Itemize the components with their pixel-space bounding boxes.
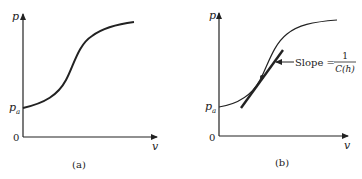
intercept-label: pa bbox=[9, 101, 20, 116]
y-axis-label: p bbox=[209, 9, 216, 22]
x-axis-label: v bbox=[344, 139, 351, 152]
origin-label: 0 bbox=[13, 132, 19, 143]
slope-numerator: 1 bbox=[342, 51, 348, 61]
slope-label: Slope = bbox=[295, 57, 335, 68]
origin-label: 0 bbox=[209, 132, 215, 143]
intercept-label: pa bbox=[205, 100, 216, 115]
panel-a: p v 0 pa (a) bbox=[9, 10, 159, 170]
panel-b: Slope = 1 C(h) p v 0 pa (b) bbox=[205, 9, 356, 168]
figure: p v 0 pa (a) Slope = 1 C(h) p v 0 pa (b) bbox=[0, 0, 362, 179]
s-curve bbox=[23, 22, 134, 108]
tangent-point bbox=[260, 75, 264, 79]
y-axis-label: p bbox=[12, 10, 19, 23]
caption-a: (a) bbox=[72, 159, 86, 170]
slope-denominator: C(h) bbox=[335, 64, 355, 74]
caption-b: (b) bbox=[275, 157, 289, 168]
x-axis-label: v bbox=[152, 140, 159, 153]
